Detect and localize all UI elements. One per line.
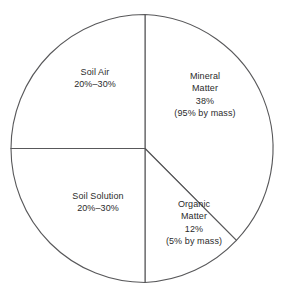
pie-slice-label-mineral-matter-line1: Mineral: [154, 70, 256, 82]
pie-slice-label-soil-air: Soil Air 20%–30%: [54, 66, 136, 91]
pie-slice-label-organic-matter-line4: (5% by mass): [146, 235, 242, 247]
pie-slice-label-soil-solution: Soil Solution 20%–30%: [46, 190, 150, 215]
pie-slice-label-mineral-matter-line3: 38%: [154, 95, 256, 107]
pie-slice-label-soil-solution-line2: 20%–30%: [46, 202, 150, 214]
pie-slice-label-mineral-matter-line4: (95% by mass): [154, 107, 256, 119]
pie-slice-label-soil-air-line2: 20%–30%: [54, 78, 136, 90]
pie-slice-soil-solution: [11, 149, 145, 283]
pie-chart: Mineral Matter 38% (95% by mass) Organic…: [0, 0, 286, 297]
pie-slice-label-mineral-matter: Mineral Matter 38% (95% by mass): [154, 70, 256, 120]
pie-slice-label-soil-air-line1: Soil Air: [54, 66, 136, 78]
pie-slice-label-organic-matter-line2: Matter: [146, 210, 242, 222]
pie-slice-label-organic-matter-line1: Organic: [146, 198, 242, 210]
pie-slice-label-soil-solution-line1: Soil Solution: [46, 190, 150, 202]
pie-chart-graphic: [0, 0, 286, 297]
pie-slice-label-mineral-matter-line2: Matter: [154, 82, 256, 94]
pie-slice-label-organic-matter-line3: 12%: [146, 223, 242, 235]
pie-slice-label-organic-matter: Organic Matter 12% (5% by mass): [146, 198, 242, 248]
